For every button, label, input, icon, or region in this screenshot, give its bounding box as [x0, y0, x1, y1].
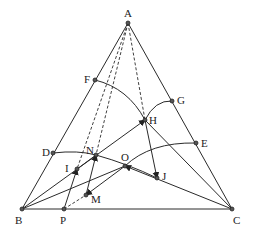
label-j: J: [162, 170, 167, 182]
point-b: [20, 207, 24, 211]
triangle-abc: [22, 23, 232, 209]
label-m: M: [91, 193, 101, 205]
point-o: [123, 164, 127, 168]
side-ab: [22, 23, 128, 209]
diagram-canvas: A B C P F G H D E N I O J M: [0, 0, 255, 238]
label-c: C: [233, 214, 240, 226]
points: [20, 21, 234, 211]
label-e: E: [201, 137, 208, 149]
vector-pi: [64, 169, 77, 209]
segment-hc: [145, 120, 232, 209]
point-f: [93, 78, 97, 82]
label-f: F: [84, 73, 90, 85]
point-h: [143, 118, 147, 122]
point-m: [84, 193, 88, 197]
label-b: B: [15, 214, 22, 226]
point-p: [62, 207, 66, 211]
point-j: [155, 176, 159, 180]
point-g: [170, 99, 174, 103]
label-d: D: [42, 146, 50, 158]
point-e: [194, 141, 198, 145]
label-n: N: [86, 144, 94, 156]
point-c: [230, 207, 234, 211]
arc-fh: [95, 80, 145, 120]
label-p: P: [60, 214, 66, 226]
dashed-ai: [77, 23, 128, 169]
point-a: [126, 21, 130, 25]
side-ac: [128, 23, 232, 209]
arc-oe: [125, 143, 196, 166]
point-n: [94, 153, 98, 157]
vector-hj: [145, 120, 157, 178]
label-o: O: [121, 151, 129, 163]
label-g: G: [177, 94, 185, 106]
point-d: [51, 151, 55, 155]
dashed-pm: [64, 195, 86, 209]
vector-co: [125, 166, 232, 209]
triangle-geometry-diagram: A B C P F G H D E N I O J M: [0, 0, 255, 238]
label-h: H: [149, 114, 157, 126]
point-i: [75, 167, 79, 171]
label-a: A: [124, 7, 132, 19]
labels: A B C P F G H D E N I O J M: [15, 7, 240, 226]
arcs: [53, 80, 196, 178]
label-i: I: [65, 162, 69, 174]
